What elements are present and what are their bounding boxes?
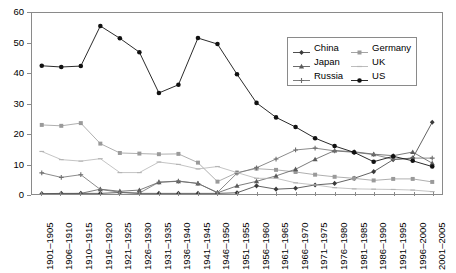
data-point [215,42,220,47]
x-tick-mark [217,192,218,196]
data-point [293,125,298,130]
x-tick-mark [237,192,238,196]
x-tick-label: 1981–1985 [359,222,369,270]
x-tick-mark [355,192,356,196]
x-tick-label: 1961–1965 [280,222,290,270]
x-tick-label: 1976–1980 [339,222,349,270]
x-tick-label: 1971–1975 [319,222,329,270]
data-point [333,175,337,179]
data-point [332,181,337,186]
data-point [430,156,435,161]
data-point [137,152,141,156]
x-tick-mark [159,192,160,196]
data-point [371,159,376,164]
data-point [79,121,83,125]
x-tick-label: 1951–1955 [241,222,251,270]
data-point [157,91,162,96]
series-china [39,120,434,194]
x-tick-mark [100,192,101,196]
y-tick-label: 0 [19,190,24,200]
data-point [352,176,356,180]
x-tick-label: 1941–1945 [202,222,212,270]
x-tick-label: 1966–1970 [300,222,310,270]
y-tick-label: 30 [13,99,24,109]
x-tick-mark [139,192,140,196]
data-point [274,187,279,192]
data-point [430,120,435,125]
data-point [293,148,298,153]
y-tick-label: 10 [13,160,24,170]
x-tick-label: 1926–1930 [143,222,153,270]
data-point [235,72,240,77]
data-point [39,64,44,69]
x-tick-mark [315,192,316,196]
x-tick-mark [60,192,61,196]
legend-marker-icon [292,71,311,80]
legend-label: China [314,43,339,53]
x-tick-label: 1956–1960 [261,222,271,270]
x-tick-label: 1936–1940 [182,222,192,270]
data-point [391,177,395,181]
x-tick-mark [198,192,199,196]
y-tick-label: 40 [13,68,24,78]
data-point [196,36,201,41]
data-point [332,144,337,149]
x-axis: 1901–19051906–19101910–19151916–19201921… [31,196,443,273]
x-tick-label: 1901–1905 [45,222,55,270]
legend-marker-icon [292,57,311,66]
x-tick-label: 1916–1920 [104,222,114,270]
x-tick-mark [414,192,415,196]
data-point [59,65,64,70]
data-point [59,175,64,180]
legend-item-china[interactable]: China [292,41,343,54]
data-point [137,50,142,55]
x-tick-mark [178,192,179,196]
data-point [293,167,298,172]
legend-label: UK [372,57,385,67]
data-point [430,164,435,169]
data-point [40,123,44,127]
legend-item-uk[interactable]: UK [350,55,411,68]
line-chart: 0102030405060 1901–19051906–19101910–191… [0,0,456,273]
x-tick-mark [394,192,395,196]
data-point [39,171,44,176]
legend-item-russia[interactable]: Russia [292,69,343,82]
data-point [313,136,318,141]
data-point [176,83,181,88]
legend-label: Russia [314,71,343,81]
data-point [313,157,318,162]
data-point [118,151,122,155]
data-point [313,146,318,151]
x-tick-label: 1931–1935 [163,222,173,270]
data-point [196,161,200,165]
x-tick-label: 1996–2000 [418,222,428,270]
x-tick-mark [433,192,434,196]
data-point [352,150,357,155]
data-point [254,101,259,106]
x-tick-label: 1986–1990 [378,222,388,270]
legend-item-japan[interactable]: Japan [292,55,343,68]
data-point [411,177,415,181]
legend-marker-icon [350,57,369,66]
x-tick-mark [41,192,42,196]
y-axis: 0102030405060 [0,0,28,195]
legend-item-us[interactable]: US [350,69,411,82]
data-point [372,178,376,182]
legend-label: US [372,71,385,81]
data-point [79,64,84,69]
legend-item-germany[interactable]: Germany [350,41,411,54]
data-point [118,36,123,41]
data-point [157,152,161,156]
data-point [391,154,396,159]
legend-marker-icon [350,43,369,52]
x-tick-label: 1906–1910 [64,222,74,270]
data-point [274,168,278,172]
x-tick-label: 1921–1925 [123,222,133,270]
data-point [410,159,415,164]
chart-legend: ChinaGermanyJapanUKRussiaUS [287,37,417,86]
data-point [274,157,279,162]
x-tick-mark [374,192,375,196]
data-point [313,173,317,177]
y-tick-label: 20 [13,129,24,139]
legend-label: Japan [314,57,340,67]
